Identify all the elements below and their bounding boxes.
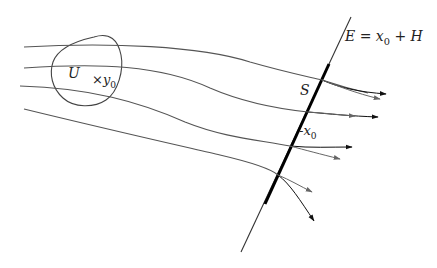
flow-arrow-3a <box>290 146 352 147</box>
flow-arrow-4b <box>278 175 312 192</box>
flow-diagram: U ×y0 S -x0 E = x0 + H <box>0 0 437 268</box>
flow-arrow-4a <box>278 175 314 221</box>
flow-arrow-2b <box>308 112 355 116</box>
cross-marker-icon: × <box>92 72 103 87</box>
region-u <box>51 36 121 106</box>
label-section-s: S <box>300 82 310 98</box>
flow-line-4 <box>24 109 278 175</box>
section-s <box>265 64 329 204</box>
label-point-y0: ×y0 <box>92 72 116 90</box>
label-region-u: U <box>68 65 80 81</box>
label-x0: -x0 <box>299 123 317 141</box>
label-plane-equation: E = x0 + H <box>345 28 423 47</box>
flow-arrow-3b <box>290 146 340 159</box>
